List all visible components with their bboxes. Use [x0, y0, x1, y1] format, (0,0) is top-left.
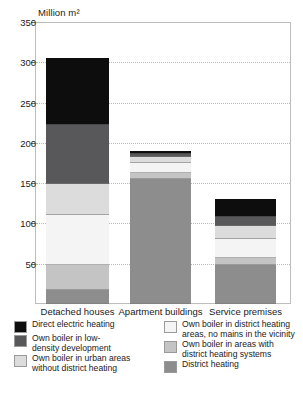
bar-segment [46, 290, 109, 304]
bar-segment [215, 199, 276, 217]
y-tick-label: 150 [10, 178, 36, 189]
legend-item-label: District heating [182, 360, 239, 370]
legend-item-own-boiler-low-density[interactable]: Own boiler in low-density development [14, 334, 162, 353]
legend-swatch-icon [164, 341, 177, 353]
category-label-apartment-buildings: Apartment buildings [112, 306, 209, 317]
legend-item-own-boiler-urban-no-dh[interactable]: Own boiler in urban areaswithout distric… [14, 354, 162, 373]
stacked-bar-chart: Million m² 35030025020015010050 Detached… [0, 0, 303, 395]
bar-segment [215, 258, 276, 265]
y-axis-title: Million m² [38, 7, 80, 18]
bar-segment [46, 58, 109, 125]
legend-column-right: Own boiler in district heatingareas, no … [164, 320, 303, 374]
bar-segment [46, 265, 109, 290]
legend-item-own-boiler-areas-with-dh[interactable]: Own boiler in areas withdistrict heating… [164, 340, 303, 359]
y-tick-label: 350 [10, 17, 36, 28]
bar-segment [215, 217, 276, 226]
legend-swatch-icon [14, 335, 27, 347]
bar-detached-houses [46, 58, 109, 304]
legend-item-label: Own boiler in areas withdistrict heating… [182, 340, 274, 359]
y-tick-label: 300 [10, 57, 36, 68]
legend-swatch-icon [14, 321, 27, 333]
y-tick-label: 200 [10, 137, 36, 148]
bar-segment [130, 163, 191, 173]
legend-swatch-icon [164, 321, 177, 333]
y-tick-label: 50 [10, 258, 36, 269]
y-tick-label: 100 [10, 218, 36, 229]
legend-item-district-heating[interactable]: District heating [164, 360, 303, 373]
legend-item-label: Own boiler in district heatingareas, no … [182, 320, 295, 339]
bar-segment [130, 179, 191, 304]
bar-segment [215, 239, 276, 258]
legend-item-label: Own boiler in low-density development [32, 334, 111, 353]
bar-segment [215, 226, 276, 239]
bar-service-premises [215, 199, 276, 304]
legend: Direct electric heatingOwn boiler in low… [14, 320, 294, 382]
bar-segment [46, 125, 109, 184]
legend-item-direct-electric-heating[interactable]: Direct electric heating [14, 320, 162, 333]
bar-apartment-buildings [130, 151, 191, 304]
bars-layer [35, 22, 291, 304]
y-tick-label: 250 [10, 97, 36, 108]
legend-column-left: Direct electric heatingOwn boiler in low… [14, 320, 162, 374]
legend-item-label: Direct electric heating [32, 320, 115, 330]
legend-item-label: Own boiler in urban areaswithout distric… [32, 354, 130, 373]
legend-item-own-boiler-dh-area-no-mains[interactable]: Own boiler in district heatingareas, no … [164, 320, 303, 339]
category-label-service-premises: Service premises [197, 306, 294, 317]
legend-swatch-icon [14, 355, 27, 367]
legend-swatch-icon [164, 361, 177, 373]
bar-segment [46, 184, 109, 215]
bar-segment [215, 265, 276, 304]
bar-segment [46, 215, 109, 265]
